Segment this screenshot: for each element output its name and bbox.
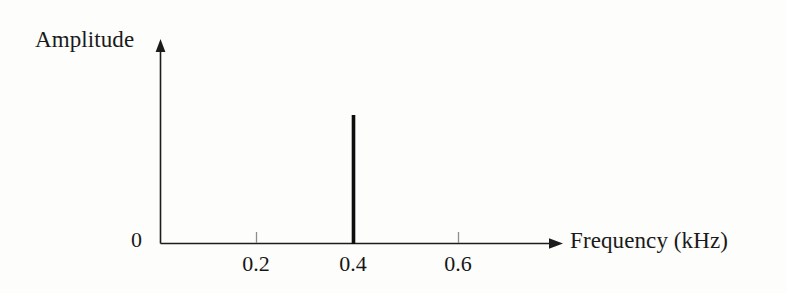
y-axis-title: Amplitude [35, 28, 134, 51]
x-axis-title: Frequency (kHz) [570, 229, 728, 252]
spectrum-figure: Amplitude 0 Frequency (kHz) 0.2 0.4 0.6 [0, 0, 787, 293]
x-axis-arrowhead [549, 238, 563, 248]
x-tick-label-0.2: 0.2 [242, 251, 270, 277]
origin-label: 0 [131, 229, 142, 251]
x-tick-label-0.6: 0.6 [444, 251, 472, 277]
x-tick-label-0.4: 0.4 [339, 251, 367, 277]
y-axis-arrowhead [156, 39, 166, 52]
